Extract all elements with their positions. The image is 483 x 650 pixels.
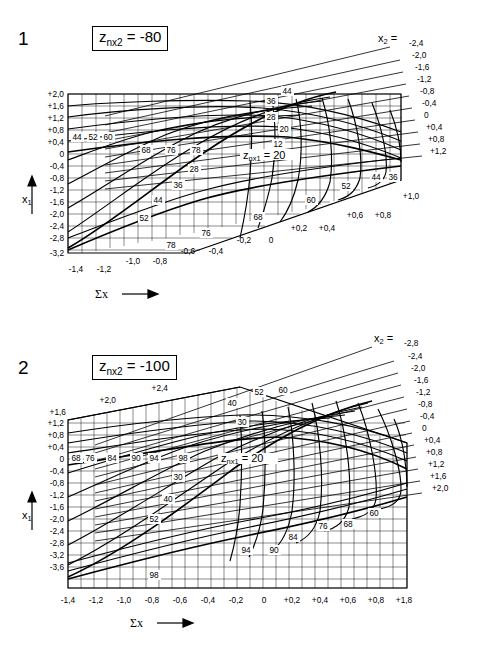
svg-text:60: 60 (306, 195, 316, 205)
svg-text:-1,4: -1,4 (69, 264, 84, 274)
svg-text:+0,8: +0,8 (368, 595, 385, 605)
svg-text:-1,6: -1,6 (50, 197, 65, 207)
svg-text:+1,6: +1,6 (48, 101, 65, 111)
x-axis-label-1: Σx (95, 287, 108, 301)
svg-text:-1,2: -1,2 (50, 185, 65, 195)
svg-text:28: 28 (266, 112, 276, 122)
svg-text:76: 76 (318, 521, 328, 531)
svg-text:-0,2: -0,2 (229, 595, 244, 605)
y-axis-ticks-2: +1,2 +0,8 +0,4 0 -0,4 -0,8 -1,2 -1,6 -2,… (48, 418, 65, 572)
curve-labels-1: 44 52 60 68 76 78 28 36 44 52 76 78 44 (71, 86, 400, 250)
svg-text:+2,0: +2,0 (48, 89, 65, 99)
svg-text:0: 0 (59, 149, 64, 159)
svg-text:+1,6: +1,6 (50, 407, 67, 417)
svg-text:+0,8: +0,8 (426, 447, 443, 457)
svg-text:60: 60 (103, 132, 113, 142)
svg-text:98: 98 (178, 453, 188, 463)
svg-text:0: 0 (424, 110, 429, 120)
x-axis-arrow-2 (157, 619, 193, 627)
svg-text:-1,2: -1,2 (89, 595, 104, 605)
svg-text:-1,2: -1,2 (416, 387, 431, 397)
svg-text:+2,4: +2,4 (152, 383, 169, 393)
svg-text:60: 60 (369, 508, 379, 518)
svg-text:-1,6: -1,6 (50, 502, 65, 512)
svg-text:0: 0 (59, 454, 64, 464)
svg-text:-0,8: -0,8 (50, 173, 65, 183)
svg-text:-1,2: -1,2 (97, 264, 112, 274)
svg-text:76: 76 (85, 453, 95, 463)
svg-text:-0,8: -0,8 (145, 595, 160, 605)
svg-text:-0,6: -0,6 (181, 246, 196, 256)
fan-ticks-1: -2,4 -2,0 -1,6 -1,2 -0,8 -0,4 0 +0,4 +0,… (409, 38, 447, 156)
svg-text:+0,4: +0,4 (48, 137, 65, 147)
svg-text:-2,0: -2,0 (412, 50, 427, 60)
svg-text:78: 78 (191, 145, 201, 155)
svg-text:44: 44 (153, 195, 163, 205)
svg-text:+1,6: +1,6 (430, 471, 447, 481)
svg-text:+0,4: +0,4 (312, 595, 329, 605)
svg-text:84: 84 (107, 453, 117, 463)
svg-text:+1,0: +1,0 (403, 191, 420, 201)
svg-text:+0,4: +0,4 (424, 435, 441, 445)
svg-text:-0,4: -0,4 (420, 411, 435, 421)
svg-text:+0,4: +0,4 (319, 223, 336, 233)
svg-text:98: 98 (149, 570, 159, 580)
svg-text:94: 94 (149, 453, 159, 463)
param-label-1: znx1 = 20 (240, 149, 300, 163)
svg-text:-2,0: -2,0 (50, 209, 65, 219)
svg-text:+0,6: +0,6 (340, 595, 357, 605)
svg-text:+2,0: +2,0 (432, 483, 449, 493)
svg-text:52: 52 (149, 514, 159, 524)
svg-text:-0,8: -0,8 (153, 256, 168, 266)
svg-text:-1,4: -1,4 (61, 595, 76, 605)
fan-axis-label-1: x2 = (378, 32, 397, 46)
svg-text:-2,4: -2,4 (409, 38, 424, 48)
svg-text:+1,2: +1,2 (48, 418, 65, 428)
svg-text:90: 90 (269, 545, 279, 555)
svg-text:76: 76 (166, 145, 176, 155)
svg-text:76: 76 (201, 228, 211, 238)
svg-text:-2,8: -2,8 (50, 233, 65, 243)
svg-text:36: 36 (266, 96, 276, 106)
svg-text:-3,2: -3,2 (50, 248, 65, 258)
fan-ticks-2: -2,8 -2,4 -2,0 -1,6 -1,2 -0,8 -0,4 0 +0,… (404, 338, 449, 493)
svg-text:68: 68 (343, 519, 353, 529)
svg-text:-1,6: -1,6 (415, 62, 430, 72)
svg-text:-2,8: -2,8 (404, 338, 419, 348)
svg-text:30: 30 (237, 417, 247, 427)
y-axis-label-1: x1 (22, 193, 32, 207)
svg-text:-1,2: -1,2 (50, 490, 65, 500)
svg-text:-1,2: -1,2 (417, 74, 432, 84)
y-axis-label-2: x1 (22, 509, 32, 523)
svg-text:-0,8: -0,8 (420, 86, 435, 96)
svg-text:90: 90 (131, 453, 141, 463)
nomogram-chart-1: 1 znx2 = -80 (0, 0, 483, 325)
svg-text:-0,8: -0,8 (50, 478, 65, 488)
svg-text:-1,6: -1,6 (414, 375, 429, 385)
svg-text:-2,0: -2,0 (50, 514, 65, 524)
svg-text:-0,4: -0,4 (422, 98, 437, 108)
y-axis-arrow-2 (28, 492, 36, 530)
svg-text:+1,2: +1,2 (430, 146, 447, 156)
svg-text:-0,8: -0,8 (418, 399, 433, 409)
fan-axis-label-2: x2 = (374, 332, 393, 346)
svg-text:+0,6: +0,6 (347, 210, 364, 220)
param-label-2: znx1 = 20 (218, 452, 278, 466)
svg-text:0: 0 (269, 235, 274, 245)
svg-text:94: 94 (241, 545, 251, 555)
x-axis-ticks-1: -1,4 -1,2 -1,0 -0,8 -0,6 -0,4 -0,2 0 +0,… (69, 191, 420, 274)
svg-text:-1,0: -1,0 (117, 595, 132, 605)
svg-text:40: 40 (163, 494, 173, 504)
svg-text:+0,2: +0,2 (284, 595, 301, 605)
svg-text:68: 68 (71, 453, 81, 463)
svg-text:+0,4: +0,4 (426, 122, 443, 132)
y-axis-ticks-1: +2,0 +1,6 +1,2 +0,8 +0,4 0 -0,4 -0,8 -1,… (48, 89, 65, 258)
svg-text:52: 52 (88, 132, 98, 142)
svg-text:-0,4: -0,4 (50, 466, 65, 476)
svg-text:0: 0 (262, 595, 267, 605)
svg-text:-0,4: -0,4 (50, 161, 65, 171)
svg-text:36: 36 (173, 180, 183, 190)
svg-text:-0,4: -0,4 (209, 246, 224, 256)
svg-text:-3,2: -3,2 (50, 550, 65, 560)
x-axis-ticks-2: -1,4 -1,2 -1,0 -0,8 -0,6 -0,4 -0,2 0 +0,… (61, 595, 413, 605)
